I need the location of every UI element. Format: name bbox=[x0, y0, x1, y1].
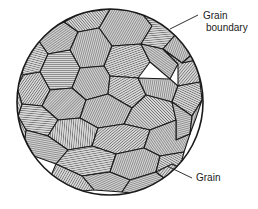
grain-structure-figure: Grain boundary Grain bbox=[0, 0, 258, 209]
grain-boundary-label-line2: boundary bbox=[206, 22, 248, 33]
grain-boundary-label-line1: Grain bbox=[203, 10, 227, 21]
figure-svg: Grain boundary Grain bbox=[0, 0, 258, 209]
grain-label: Grain bbox=[196, 172, 220, 183]
grain-boundary-leader-line bbox=[170, 15, 198, 29]
